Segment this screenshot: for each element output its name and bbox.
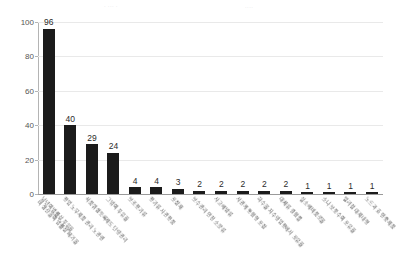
bar-value-label: 3	[167, 178, 189, 187]
bar[interactable]	[215, 191, 227, 194]
x-axis-category-labels: 남년의법률상 푸유율비 생산물의 법률상 페기물용입 노무제품 관리 노관련식품…	[38, 196, 383, 273]
bar-group[interactable]: 2	[189, 22, 211, 194]
bar-value-label: 1	[361, 182, 383, 191]
bar[interactable]	[172, 189, 184, 194]
scan-artifact-top-right: ····	[245, 4, 253, 10]
bar[interactable]	[366, 192, 378, 194]
bar-group[interactable]: 2	[232, 22, 254, 194]
x-axis-category-label: 포장재	[170, 196, 184, 210]
y-axis-tick-mark	[35, 125, 38, 126]
bar-value-label: 2	[211, 180, 233, 189]
bar-group[interactable]: 96	[38, 22, 60, 194]
bar[interactable]	[64, 125, 76, 194]
y-axis-tick-label: 80	[8, 53, 34, 61]
bar[interactable]	[258, 191, 270, 194]
bar-value-label: 1	[297, 182, 319, 191]
x-axis-category-label: 노드과 효 인중제품	[364, 196, 396, 230]
bar-group[interactable]: 4	[124, 22, 146, 194]
y-axis-tick-mark	[35, 160, 38, 161]
bar-group[interactable]: 24	[103, 22, 125, 194]
bar[interactable]	[193, 191, 205, 194]
bar-value-label: 24	[103, 142, 125, 151]
bar-value-label: 2	[275, 180, 297, 189]
x-axis-category-label: 남년의법률상 푸유율비 생산물의 법률상 페기물	[37, 196, 84, 245]
bar-value-label: 96	[38, 18, 60, 27]
x-axis-category-label: 보조용기류	[127, 196, 148, 218]
y-axis-tick-mark	[35, 56, 38, 57]
bar-chart: · ··· · ···· 96402924443222221111 020406…	[0, 0, 406, 273]
plot-area: 96402924443222221111	[38, 22, 383, 194]
bar[interactable]	[237, 191, 249, 194]
axis-baseline	[38, 194, 383, 195]
bar-value-label: 2	[189, 180, 211, 189]
bar-group[interactable]: 2	[275, 22, 297, 194]
bar-value-label: 29	[81, 134, 103, 143]
bar-group[interactable]: 1	[297, 22, 319, 194]
bar-group[interactable]: 1	[318, 22, 340, 194]
bar[interactable]	[129, 187, 141, 194]
scan-artifact-top-left: · ··· ·	[104, 3, 118, 9]
y-axis-tick-label: 40	[8, 122, 34, 130]
bar[interactable]	[43, 29, 55, 194]
bar-group[interactable]: 3	[167, 22, 189, 194]
bar-group[interactable]: 40	[60, 22, 82, 194]
bar-group[interactable]: 1	[361, 22, 383, 194]
bar[interactable]	[323, 192, 335, 194]
bar-value-label: 4	[124, 177, 146, 186]
bar-group[interactable]: 4	[146, 22, 168, 194]
bar-value-label: 1	[318, 182, 340, 191]
bar[interactable]	[280, 191, 292, 194]
y-axis-tick-label: 100	[8, 19, 34, 27]
bar[interactable]	[344, 192, 356, 194]
bar[interactable]	[301, 192, 313, 194]
y-axis-tick-label: 60	[8, 87, 34, 95]
bar-value-label: 2	[254, 180, 276, 189]
y-axis-tick-label: 0	[8, 191, 34, 199]
y-axis-tick-mark	[35, 22, 38, 23]
x-axis-category-label: 식품위생등록제도 단량관리	[84, 196, 129, 244]
y-axis-tick-mark	[35, 194, 38, 195]
bar-value-label: 4	[146, 177, 168, 186]
bar-value-label: 2	[232, 180, 254, 189]
bar[interactable]	[86, 144, 98, 194]
bar[interactable]	[150, 187, 162, 194]
bar-group[interactable]: 29	[81, 22, 103, 194]
bar-value-label: 40	[60, 115, 82, 124]
bar-group[interactable]: 2	[211, 22, 233, 194]
x-axis-category-label: 사고예방류	[213, 196, 234, 218]
bar-group[interactable]: 1	[340, 22, 362, 194]
bar-group[interactable]: 2	[254, 22, 276, 194]
y-axis-tick-mark	[35, 91, 38, 92]
bar[interactable]	[107, 153, 119, 194]
y-axis-tick-label: 20	[8, 156, 34, 164]
bar-value-label: 1	[340, 182, 362, 191]
